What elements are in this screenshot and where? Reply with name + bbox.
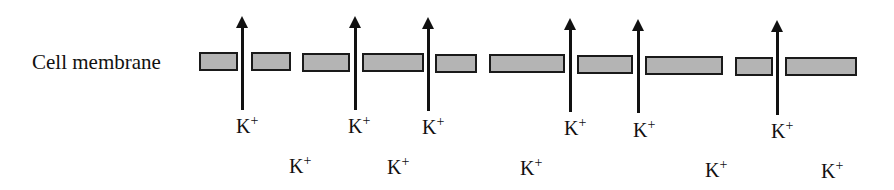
arrowhead-icon: [422, 17, 434, 29]
membrane-segment: [435, 54, 477, 73]
arrow-up-icon: [241, 26, 244, 110]
membrane-label: Cell membrane: [32, 50, 161, 75]
membrane-segment: [251, 52, 291, 71]
arrow-up-icon: [354, 26, 357, 110]
potassium-ion-label: K+: [236, 115, 258, 138]
membrane-segment: [199, 52, 238, 71]
potassium-ion-label: K+: [633, 119, 655, 142]
arrow-up-icon: [427, 27, 430, 111]
arrowhead-icon: [349, 16, 361, 28]
membrane-segment: [785, 57, 857, 76]
membrane-segment: [645, 56, 723, 75]
membrane-segment: [489, 54, 565, 73]
arrowhead-icon: [632, 19, 644, 31]
potassium-ion-label: K+: [705, 159, 727, 182]
potassium-ion-label: K+: [348, 115, 370, 138]
membrane-segment: [577, 55, 633, 74]
potassium-ion-label: K+: [422, 116, 444, 139]
potassium-ion-label: K+: [771, 120, 793, 143]
membrane-segment: [362, 53, 424, 72]
arrowhead-icon: [236, 16, 248, 28]
potassium-ion-label: K+: [387, 156, 409, 179]
membrane-segment: [735, 57, 773, 76]
arrowhead-icon: [564, 18, 576, 30]
arrow-up-icon: [637, 29, 640, 113]
potassium-ion-label: K+: [289, 155, 311, 178]
potassium-ion-label: K+: [520, 157, 542, 180]
potassium-ion-label: K+: [564, 117, 586, 140]
arrow-up-icon: [569, 28, 572, 112]
potassium-channel-diagram: Cell membrane K+K+K+K+K+K+ K+K+K+K+K+: [0, 0, 894, 190]
arrow-up-icon: [776, 30, 779, 115]
potassium-ion-label: K+: [821, 160, 843, 183]
arrowhead-icon: [771, 20, 783, 32]
membrane-segment: [302, 53, 350, 72]
